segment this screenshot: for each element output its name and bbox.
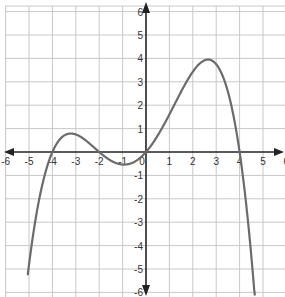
y-tick-label: 3 [137, 77, 143, 88]
coordinate-plane: -6-5-4-3-2-10123456-6-5-4-3-2-1123456 [0, 0, 285, 297]
axes [4, 2, 284, 296]
x-tick-label: -5 [25, 156, 34, 167]
x-tick-label: 1 [167, 156, 173, 167]
y-tick-label: -4 [134, 241, 143, 252]
x-tick-label: -6 [1, 156, 10, 167]
y-tick-label: 4 [137, 53, 143, 64]
x-tick-label: -2 [95, 156, 104, 167]
arrow-down-icon [142, 285, 150, 296]
arrow-right-icon [274, 148, 284, 156]
x-tick-label: 5 [260, 156, 266, 167]
y-tick-label: 5 [137, 30, 143, 41]
y-tick-label: 6 [137, 7, 143, 18]
x-tick-label: 3 [213, 156, 219, 167]
y-tick-label: -1 [134, 170, 143, 181]
y-tick-label: -3 [134, 217, 143, 228]
x-tick-label: 6 [284, 156, 285, 167]
y-tick-label: -6 [134, 287, 143, 297]
y-tick-label: 1 [137, 124, 143, 135]
x-tick-label: -3 [71, 156, 80, 167]
y-tick-label: -5 [134, 264, 143, 275]
y-tick-label: 2 [137, 100, 143, 111]
x-tick-label: 2 [190, 156, 196, 167]
y-tick-label: -2 [134, 194, 143, 205]
arrow-up-icon [142, 2, 150, 13]
